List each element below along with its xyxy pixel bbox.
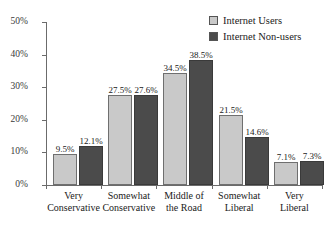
bar: 34.5% (163, 73, 187, 185)
x-axis-tick (46, 185, 47, 189)
y-axis-tick (42, 152, 46, 153)
x-axis-tick (322, 185, 323, 189)
bar: 27.5% (108, 95, 132, 185)
y-axis-line (46, 22, 47, 185)
bar: 7.3% (300, 161, 324, 185)
bar: 14.6% (245, 137, 269, 185)
bar-group: 21.5%14.6% (217, 22, 269, 185)
bar-value-label: 27.6% (134, 86, 157, 95)
plot-area: 0%10%20%30%40%50% 9.5%12.1%27.5%27.6%34.… (46, 22, 322, 185)
x-axis-tick (101, 185, 102, 189)
y-axis-tick-label: 20% (0, 115, 28, 125)
x-axis-line (46, 185, 322, 186)
x-axis-tick (156, 185, 157, 189)
x-axis-tick (212, 185, 213, 189)
y-axis-tick-label: 10% (0, 147, 28, 157)
y-axis-tick-label: 30% (0, 82, 28, 92)
y-axis-tick (42, 22, 46, 23)
bar: 12.1% (79, 146, 103, 185)
category-label-line: Liberal (258, 202, 330, 214)
bar-value-label: 21.5% (219, 106, 242, 115)
bar-group: 7.1%7.3% (272, 22, 324, 185)
bar: 27.6% (134, 95, 158, 185)
bar-value-label: 12.1% (79, 137, 102, 146)
bar-chart: Internet Users Internet Non-users 0%10%2… (0, 0, 336, 242)
bar: 38.5% (189, 60, 213, 186)
y-axis-tick (42, 120, 46, 121)
y-axis-tick (42, 55, 46, 56)
bar-value-label: 34.5% (163, 64, 186, 73)
bar: 21.5% (219, 115, 243, 185)
bar: 7.1% (274, 162, 298, 185)
bar-value-label: 27.5% (108, 86, 131, 95)
bar-value-label: 7.3% (303, 152, 322, 161)
y-axis-tick-label: 50% (0, 17, 28, 27)
bar-group: 34.5%38.5% (161, 22, 213, 185)
y-axis-tick-label: 0% (0, 180, 28, 190)
x-axis-tick (267, 185, 268, 189)
y-axis-tick-label: 40% (0, 50, 28, 60)
bar-value-label: 14.6% (245, 128, 268, 137)
bar: 9.5% (53, 154, 77, 185)
x-axis-category-label: VeryLiberal (258, 190, 330, 213)
bar-value-label: 9.5% (56, 145, 75, 154)
bar-value-label: 7.1% (277, 153, 296, 162)
bar-group: 27.5%27.6% (106, 22, 158, 185)
y-axis-tick (42, 87, 46, 88)
bar-group: 9.5%12.1% (51, 22, 103, 185)
category-label-line: Very (258, 190, 330, 202)
bar-value-label: 38.5% (189, 51, 212, 60)
